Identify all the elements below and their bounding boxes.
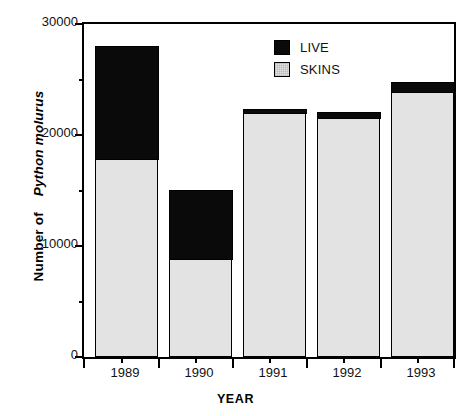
x-tick-minor-3 [343, 357, 345, 363]
y-tick-major-20000 [75, 134, 84, 136]
x-tick-minor-2 [269, 357, 271, 363]
x-tick-label-1990: 1990 [164, 366, 234, 380]
bar-1993[interactable] [391, 83, 454, 357]
bar-1990-segment-live [169, 190, 233, 260]
legend-label-live: LIVE [300, 41, 329, 54]
bar-1991[interactable] [243, 110, 306, 358]
bar-1992[interactable] [317, 113, 380, 357]
bar-1989-segment-live [95, 46, 159, 161]
y-tick-minor-5000 [79, 301, 84, 303]
legend-label-skins: SKINS [300, 63, 340, 76]
x-axis-title: YEAR [0, 392, 471, 406]
legend-item-live[interactable]: LIVE [274, 38, 424, 57]
x-tick-label-1991: 1991 [238, 366, 308, 380]
x-tick-minor-1 [195, 357, 197, 363]
x-tick-major-0 [83, 357, 85, 368]
bar-1992-segment-skins [318, 117, 379, 356]
y-tick-label-10000: 10000 [18, 237, 78, 250]
x-tick-minor-0 [121, 357, 123, 363]
x-tick-label-1993: 1993 [386, 366, 456, 380]
bar-1991-segment-live [243, 109, 307, 114]
x-tick-label-1992: 1992 [312, 366, 382, 380]
x-tick-label-1989: 1989 [90, 366, 160, 380]
legend-swatch-live-icon [274, 40, 290, 55]
x-tick-minor-4 [417, 357, 419, 363]
bar-1990[interactable] [169, 191, 232, 358]
bar-1990-segment-skins [170, 258, 231, 356]
y-tick-major-30000 [75, 23, 84, 25]
y-tick-minor-25000 [79, 79, 84, 81]
plot-area: LIVE SKINS [82, 22, 456, 359]
y-tick-label-20000: 20000 [18, 126, 78, 139]
bar-1993-segment-live [391, 82, 455, 92]
legend-swatch-skins-icon [274, 62, 290, 77]
bar-1991-segment-skins [244, 112, 305, 356]
legend-item-skins[interactable]: SKINS [274, 60, 424, 79]
y-axis-tick-labels: 30000 20000 10000 0 [12, 0, 78, 416]
y-tick-label-30000: 30000 [18, 15, 78, 28]
bar-chart-figure: Number of Python molurus 30000 20000 100… [0, 0, 471, 416]
bar-1989-segment-skins [96, 158, 157, 356]
legend: LIVE SKINS [274, 38, 424, 82]
y-tick-major-10000 [75, 245, 84, 247]
bar-1993-segment-skins [392, 91, 453, 356]
bar-1992-segment-live [317, 112, 381, 119]
bar-1989[interactable] [95, 46, 158, 357]
y-tick-label-0: 0 [18, 348, 78, 361]
y-tick-minor-15000 [79, 190, 84, 192]
